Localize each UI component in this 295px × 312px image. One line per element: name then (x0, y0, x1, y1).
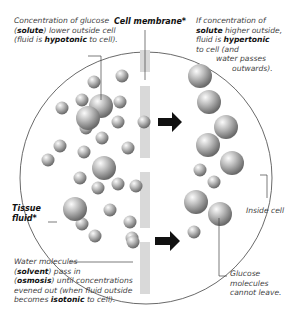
label-glucose-concentration: Concentration of glucose (solute) lower … (14, 16, 124, 45)
label-tissue-fluid: Tissue fluid* (12, 204, 52, 224)
water-molecule (112, 178, 125, 191)
water-molecule (116, 70, 129, 83)
water-molecule (54, 140, 67, 153)
water-molecule (92, 182, 105, 195)
water-molecule (194, 164, 207, 177)
water-molecule (127, 236, 140, 249)
water-molecule (104, 204, 117, 217)
arrow-icon (155, 112, 182, 251)
glucose-molecule (208, 202, 232, 226)
water-molecule (122, 142, 135, 155)
water-molecule (89, 230, 102, 243)
water-molecule (124, 216, 137, 229)
water-molecule (138, 116, 151, 129)
water-molecule (78, 146, 91, 159)
osmosis-diagram: Concentration of glucose (solute) lower … (0, 0, 295, 312)
water-molecule (42, 154, 55, 167)
water-molecule (76, 94, 89, 107)
glucose-molecule (197, 90, 221, 114)
water-molecule (96, 132, 109, 145)
water-molecule (74, 172, 87, 185)
water-molecule (56, 102, 69, 115)
glucose-molecule (214, 115, 238, 139)
label-glucose-cannot-leave: Glucose molecules cannot leave. (230, 269, 290, 298)
label-cell-membrane: Cell membrane* (114, 17, 186, 27)
glucose-molecule (63, 197, 87, 221)
water-molecule (208, 176, 221, 189)
water-molecule (114, 96, 127, 109)
label-water-molecules: Water molecules(solvent) pass in(osmosis… (14, 257, 174, 305)
glucose-molecule (220, 151, 244, 175)
water-molecule (130, 180, 143, 193)
glucose-molecule (76, 106, 100, 130)
water-molecule (88, 76, 101, 89)
water-molecule (188, 226, 201, 239)
glucose-molecule (196, 133, 220, 157)
glucose-molecule (184, 190, 208, 214)
glucose-molecule (92, 156, 116, 180)
water-molecule (112, 116, 125, 129)
label-hypertonic: If concentration of solute higher outsid… (196, 16, 294, 74)
label-inside-cell: Inside cell (246, 206, 295, 216)
